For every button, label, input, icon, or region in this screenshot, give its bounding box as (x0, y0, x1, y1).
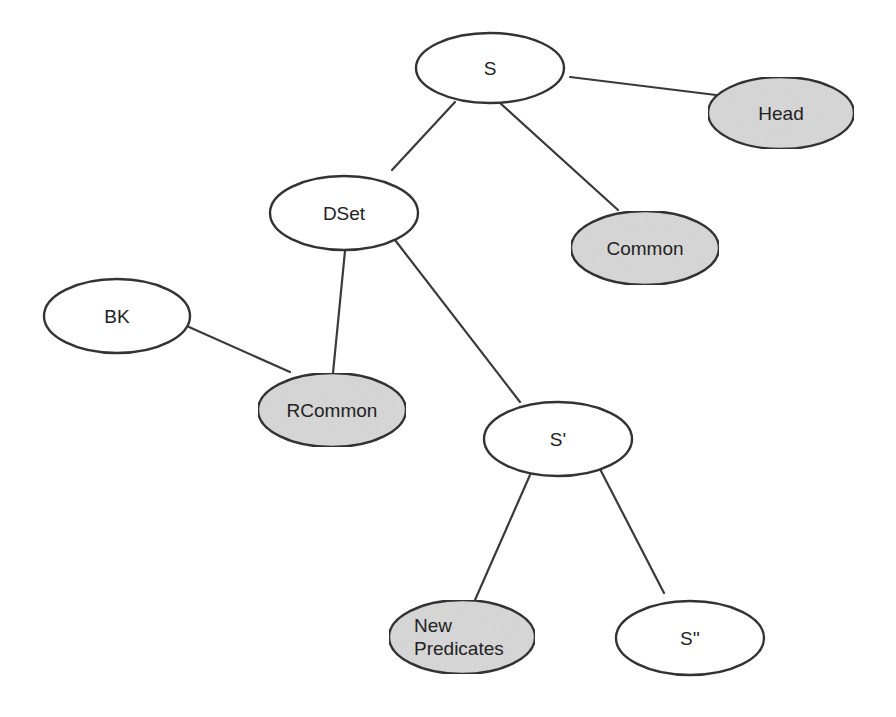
edge-s-to-head (570, 77, 716, 95)
node-label: DSet (323, 203, 366, 224)
node-bk: BK (44, 279, 190, 353)
node-common: Common (571, 211, 719, 285)
edges-layer (189, 77, 716, 600)
node-label: Common (606, 238, 683, 259)
edge-bk-to-rcommon (189, 327, 290, 372)
edge-s1-to-s2 (600, 469, 664, 593)
tree-diagram: SHeadDSetCommonBKRCommonS'NewPredicatesS… (0, 0, 896, 717)
node-head: Head (708, 77, 854, 149)
edge-dset-to-rcommon (333, 251, 345, 373)
node-label: Predicates (414, 638, 504, 659)
node-dset: DSet (270, 176, 418, 250)
edge-s1-to-new-predicates (475, 475, 530, 600)
node-label: New (414, 615, 452, 636)
edge-s-to-common (500, 103, 618, 210)
node-s: S (416, 33, 564, 103)
node-label: BK (104, 306, 130, 327)
node-label: RCommon (287, 400, 378, 421)
node-label: Head (758, 103, 803, 124)
node-label: S' (550, 429, 566, 450)
node-label: S (484, 58, 497, 79)
edge-s-to-dset (392, 102, 455, 170)
node-s2: S'' (616, 601, 764, 675)
node-rcommon: RCommon (258, 373, 406, 447)
node-new-predicates: NewPredicates (389, 600, 535, 674)
node-label: S'' (680, 628, 700, 649)
node-ellipse (389, 600, 535, 674)
node-s1: S' (484, 402, 632, 476)
nodes-layer: SHeadDSetCommonBKRCommonS'NewPredicatesS… (44, 33, 854, 675)
edge-dset-to-s1 (395, 240, 520, 402)
